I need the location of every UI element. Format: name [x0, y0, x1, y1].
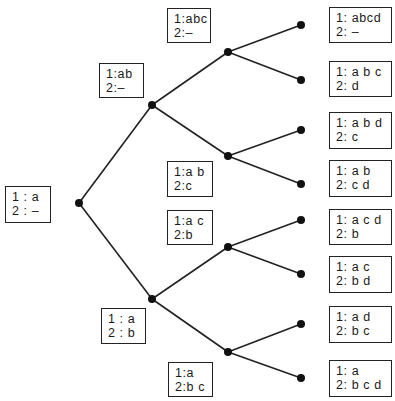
label-n2b: 1:a b 2:c: [167, 161, 213, 197]
label-leaf-8: 1: a 2: b c d: [329, 360, 392, 397]
label-line-1: 1: a d: [336, 310, 387, 324]
label-leaf-7: 1: a d 2: b c: [329, 306, 392, 343]
label-line-2: 2: c d: [336, 178, 387, 192]
label-line-2: 2: b c d: [336, 378, 387, 392]
label-line-1: 1:ab: [106, 67, 139, 81]
label-line-1: 1: abcd: [336, 11, 387, 25]
label-line-1: 1: a: [336, 364, 387, 378]
leaf-2: [297, 76, 305, 84]
label-line-2: 2:c: [174, 179, 208, 193]
label-line-2: 2: b: [336, 227, 387, 241]
label-line-1: 1 : a: [12, 190, 46, 204]
leaf-8: [297, 374, 305, 382]
label-leaf-3: 1: a b d 2: c: [329, 112, 392, 149]
label-n1a: 1:ab 2:–: [99, 63, 144, 98]
label-line-2: 2:–: [174, 26, 206, 40]
label-line-2: 2: –: [336, 25, 387, 39]
leaf-1: [297, 21, 305, 29]
label-line-2: 2 : b: [108, 326, 141, 340]
label-leaf-4: 1: a b 2: c d: [329, 160, 392, 197]
leaf-7: [297, 320, 305, 328]
label-n2c: 1:a c 2:b: [167, 210, 213, 245]
node-n2a: [224, 48, 232, 56]
label-line-1: 1: a c d: [336, 213, 387, 227]
label-line-1: 1:a c: [174, 214, 208, 228]
label-line-2: 2:b: [174, 228, 208, 242]
label-root: 1 : a 2 : –: [5, 186, 51, 223]
leaf-5: [297, 216, 305, 224]
label-leaf-1: 1: abcd 2: –: [329, 7, 392, 43]
label-line-1: 1 : a: [108, 312, 141, 326]
node-n2d: [224, 348, 232, 356]
label-line-1: 1:a b: [174, 165, 208, 179]
label-n2a: 1:abc 2:–: [167, 8, 211, 43]
leaf-3: [297, 126, 305, 134]
label-leaf-2: 1: a b c 2: d: [329, 61, 392, 97]
node-n1a: [148, 101, 156, 109]
node-n2b: [224, 152, 232, 160]
label-leaf-5: 1: a c d 2: b: [329, 209, 392, 245]
label-line-1: 1: a b d: [336, 116, 387, 130]
label-line-2: 2: b c: [336, 324, 387, 338]
label-line-2: 2 : –: [12, 204, 46, 218]
label-line-1: 1: a c: [336, 260, 387, 274]
label-line-2: 2: c: [336, 130, 387, 144]
label-n1b: 1 : a 2 : b: [101, 308, 146, 344]
label-line-1: 1: a b c: [336, 65, 387, 79]
label-n2d: 1:a 2:b c: [168, 362, 213, 397]
label-line-2: 2:–: [106, 81, 139, 95]
node-n2c: [224, 243, 232, 251]
label-line-1: 1:abc: [174, 12, 206, 26]
label-line-2: 2:b c: [175, 380, 208, 394]
label-leaf-6: 1: a c 2: b d: [329, 256, 392, 293]
leaf-6: [297, 270, 305, 278]
label-line-1: 1: a b: [336, 164, 387, 178]
node-root: [75, 199, 83, 207]
label-line-1: 1:a: [175, 366, 208, 380]
label-line-2: 2: d: [336, 79, 387, 93]
node-n1b: [148, 295, 156, 303]
label-line-2: 2: b d: [336, 274, 387, 288]
leaf-4: [297, 180, 305, 188]
